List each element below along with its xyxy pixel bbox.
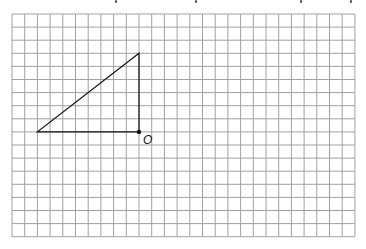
- text-descender-fragment: [300, 0, 302, 3]
- point-o-label: O: [143, 134, 152, 146]
- text-descender-fragment: [195, 0, 197, 3]
- point-o-marker: [137, 130, 141, 134]
- text-descender-fragment: [350, 0, 352, 3]
- grid-canvas: [0, 0, 366, 249]
- text-descender-fragment: [115, 0, 117, 3]
- grid-lines: [12, 14, 355, 237]
